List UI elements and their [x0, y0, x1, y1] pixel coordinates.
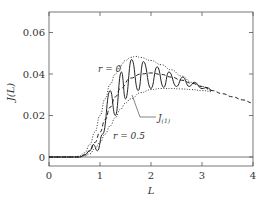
y-tick-label: 0.06: [23, 27, 45, 38]
y-tick-label: 0.04: [23, 69, 45, 80]
axis-ticks: 0123400.020.040.06: [23, 12, 256, 181]
series-line: [49, 56, 212, 157]
annotation-r05: r = 0.5: [113, 131, 145, 141]
annotation-r0: r = 0: [98, 64, 122, 74]
series-line: [49, 89, 212, 157]
annotation-leader: [132, 95, 140, 117]
x-tick-label: 0: [46, 170, 52, 181]
svg-text:J(L): J(L): [5, 83, 16, 104]
x-tick-label: 1: [97, 170, 103, 181]
x-tick-label: 4: [250, 170, 256, 181]
series-line: [49, 73, 253, 157]
data-series: [49, 56, 253, 157]
x-axis-label: L: [147, 185, 155, 196]
series-line: [49, 59, 212, 157]
y-axis-label: J(L): [5, 83, 16, 104]
annotation-j1: J(1): [156, 113, 171, 124]
y-tick-label: 0.02: [23, 110, 45, 121]
chart: 0123400.020.040.06 J(L) L r = 0 r = 0.5 …: [0, 0, 264, 205]
y-tick-label: 0: [39, 152, 45, 163]
x-tick-label: 2: [148, 170, 154, 181]
x-tick-label: 3: [199, 170, 205, 181]
